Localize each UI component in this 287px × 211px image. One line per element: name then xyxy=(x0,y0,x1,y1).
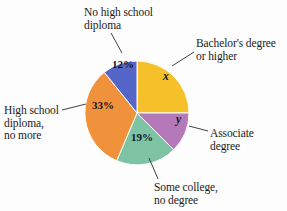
leader-line-bachelor xyxy=(172,52,194,66)
slice-value-associate: y xyxy=(176,113,181,125)
slice-label-no-high-school: No high school diploma xyxy=(84,6,153,31)
leader-line-no-high-school xyxy=(111,33,122,53)
chart-canvas: No high school diploma Bachelor's degree… xyxy=(0,0,287,211)
slice-label-bachelor: Bachelor's degree or higher xyxy=(196,37,276,62)
slice-value-some-college: 19% xyxy=(131,131,153,143)
slice-label-high-school: High school diploma, no more xyxy=(4,104,59,142)
slice-value-high-school: 33% xyxy=(92,99,114,111)
leader-line-associate xyxy=(189,126,208,131)
leader-line-high-school xyxy=(62,104,86,110)
slice-value-no-high-school: 12% xyxy=(112,58,134,70)
slice-label-some-college: Some college, no degree xyxy=(154,181,218,206)
slice-value-bachelor: x xyxy=(163,70,169,82)
slice-label-associate: Associate degree xyxy=(210,127,254,152)
pie-slice-bachelor[interactable] xyxy=(137,61,189,113)
